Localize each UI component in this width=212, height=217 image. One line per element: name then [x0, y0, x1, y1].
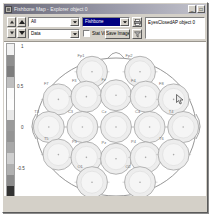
electrode-label: Fp2: [126, 53, 134, 58]
frame-page-up-button[interactable]: [17, 17, 26, 27]
colorbar-band: [7, 153, 14, 164]
colorbar-band: [7, 88, 14, 99]
window-title: Fishbone Map - Explorer object 0: [14, 6, 188, 13]
view-combo[interactable]: Fishbone: [82, 17, 130, 27]
maximize-button[interactable]: □: [197, 5, 205, 13]
frame-step-down-button[interactable]: [7, 28, 16, 38]
status-strip: [4, 196, 206, 212]
electrode-center-dot: [91, 71, 93, 73]
colorbar-band: [7, 55, 14, 66]
plot-area: 10.50-0.5-1 Fp1Fp2F7F3FzF4F8T3C3CzC4T4T5…: [4, 42, 206, 211]
electrode-center-dot: [115, 126, 117, 128]
chevron-down-icon[interactable]: [70, 18, 79, 26]
electrode-center-dot: [48, 126, 50, 128]
electrode-center-dot: [173, 154, 175, 156]
colorbar-band: [7, 77, 14, 88]
electrode-label: Fz: [102, 77, 106, 82]
electrode-f8[interactable]: F8: [156, 81, 191, 115]
grayscale-colorbar: [6, 43, 15, 209]
title-bar[interactable]: Fishbone Map - Explorer object 0 _ □: [4, 4, 206, 14]
electrode-label: P4: [131, 139, 137, 144]
electrode-label: Pz: [102, 140, 107, 145]
electrode-center-dot: [145, 157, 147, 159]
electrode-center-dot: [115, 94, 117, 96]
spinner-column-page: [17, 17, 26, 38]
electrode-center-dot: [145, 96, 147, 98]
triangle-down-large-icon: [19, 31, 25, 35]
axis-tick-label: -0.5: [17, 166, 25, 171]
print-icon: [134, 19, 141, 26]
electrode-center-dot: [173, 99, 175, 101]
view-combo-value: Fishbone: [83, 18, 120, 26]
colorbar-band: [7, 120, 14, 131]
electrode-center-dot: [58, 99, 60, 101]
electrode-label: T3: [34, 109, 39, 114]
object-info-field[interactable]: EyesClosedAP object 0: [145, 17, 205, 39]
electrode-label: F3: [72, 78, 77, 83]
minimize-button[interactable]: _: [188, 5, 196, 13]
filter-button[interactable]: [132, 29, 142, 39]
electrode-label: C4: [135, 109, 141, 114]
electrode-label: T5: [44, 136, 49, 141]
triangle-down-icon: [10, 32, 14, 35]
electrode-label: F4: [131, 78, 136, 83]
colorbar-band: [7, 175, 14, 186]
channel-combo-value: All: [29, 18, 70, 26]
object-info-text: EyesClosedAP object 0: [148, 19, 202, 26]
electrode-center-dot: [115, 158, 117, 160]
filter-icon: [134, 31, 141, 38]
mouse-pointer: [176, 94, 184, 105]
map-window-icon: [5, 6, 12, 13]
electrode-c3[interactable]: C3: [65, 109, 100, 143]
electrode-label: F8: [159, 81, 164, 86]
electrode-label: T6: [159, 136, 164, 141]
chevron-down-icon[interactable]: [70, 30, 79, 38]
channel-combo[interactable]: All: [28, 17, 80, 27]
triangle-up-large-icon: [19, 20, 25, 24]
axis-tick-label: 0: [21, 125, 24, 130]
electrode-label: P3: [72, 139, 78, 144]
chevron-down-icon[interactable]: [120, 18, 129, 26]
electrode-center-dot: [182, 126, 184, 128]
electrode-label: Fp1: [78, 53, 86, 58]
electrode-label: O2: [126, 164, 132, 169]
head-map[interactable]: Fp1Fp2F7F3FzF4F8T3C3CzC4T4T5P3PzP4T6O1O2: [26, 42, 206, 211]
frame-step-up-button[interactable]: [7, 17, 16, 27]
colorbar-band: [7, 131, 14, 142]
electrode-center-dot: [91, 181, 93, 183]
electrode-center-dot: [149, 126, 151, 128]
triangle-up-icon: [10, 21, 14, 24]
source-combo-value: Data: [29, 30, 70, 38]
electrode-center-dot: [86, 157, 88, 159]
electrode-center-dot: [82, 126, 84, 128]
checkbox-box[interactable]: [83, 30, 90, 37]
fishbone-map-window: Fishbone Map - Explorer object 0 _ □ All…: [2, 2, 208, 213]
head-map-svg: Fp1Fp2F7F3FzF4F8T3C3CzC4T4T5P3PzP4T6O1O2: [26, 42, 206, 211]
toolbar: All Data Fishbone Stat View Save Image: [4, 15, 206, 42]
axis-tick-label: 1: [21, 44, 24, 49]
electrode-label: C3: [68, 109, 74, 114]
electrode-label: F7: [44, 81, 49, 86]
save-image-button[interactable]: Save Image: [105, 29, 130, 39]
electrode-label: Cz: [102, 109, 107, 114]
colorbar-band: [7, 164, 14, 175]
colorbar-band: [7, 44, 14, 55]
frame-spinner-group: [7, 17, 26, 38]
axis-tick-label: 0.5: [17, 84, 23, 89]
source-combo[interactable]: Data: [28, 29, 80, 39]
colorbar-band: [7, 66, 14, 77]
electrode-center-dot: [139, 181, 141, 183]
electrode-center-dot: [86, 96, 88, 98]
electrode-cz[interactable]: Cz: [99, 109, 134, 143]
electrode-label: O1: [78, 164, 84, 169]
window-controls: _ □: [188, 5, 205, 13]
electrode-label: T4: [169, 109, 174, 114]
frame-page-down-button[interactable]: [17, 28, 26, 38]
print-button[interactable]: [132, 17, 142, 27]
spinner-column-single: [7, 17, 16, 38]
electrode-center-dot: [58, 154, 60, 156]
electrode-center-dot: [139, 71, 141, 73]
colorbar-band: [7, 99, 14, 110]
colorbar-band: [7, 142, 14, 153]
colorbar-band: [7, 110, 14, 121]
